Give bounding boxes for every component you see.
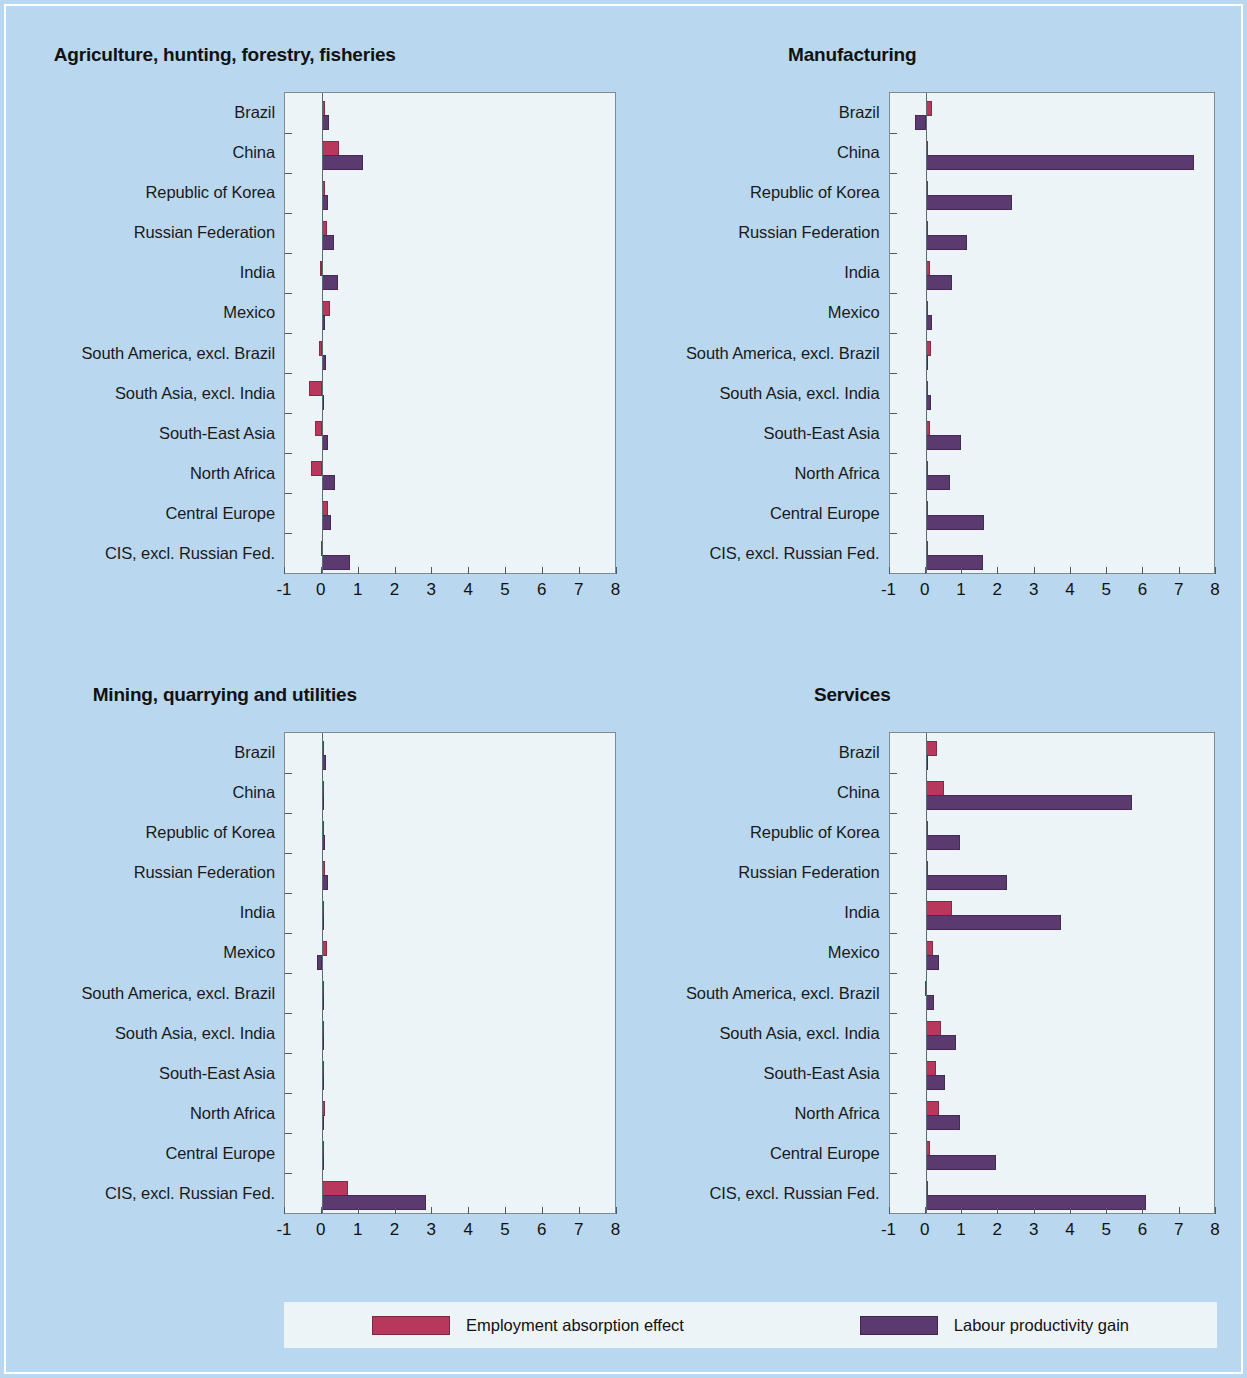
x-axis-ticks-agriculture bbox=[284, 567, 616, 574]
bars-layer bbox=[285, 93, 615, 573]
x-tick bbox=[284, 1207, 285, 1214]
x-tick bbox=[1179, 1207, 1180, 1214]
x-tick bbox=[961, 1207, 962, 1214]
chart-title-manufacturing: Manufacturing bbox=[624, 44, 1242, 66]
y-tick bbox=[890, 173, 897, 174]
x-tick bbox=[889, 567, 890, 574]
x-tick-label: 1 bbox=[956, 1220, 965, 1240]
bar-productivity bbox=[926, 955, 940, 970]
y-tick bbox=[285, 133, 292, 134]
category-labels-mining: BrazilChinaRepublic of KoreaRussian Fede… bbox=[22, 732, 284, 1214]
bar-row bbox=[890, 893, 1215, 933]
legend-item-employment: Employment absorption effect bbox=[372, 1316, 684, 1335]
plot-area-manufacturing bbox=[889, 92, 1216, 574]
category-label: South Asia, excl. India bbox=[22, 1013, 284, 1053]
y-tick bbox=[285, 373, 292, 374]
y-tick bbox=[285, 453, 292, 454]
y-tick bbox=[890, 493, 897, 494]
y-tick bbox=[890, 413, 897, 414]
bar-productivity bbox=[926, 1075, 946, 1090]
bar-row bbox=[890, 93, 1215, 133]
x-tick bbox=[616, 1207, 617, 1214]
x-tick-label: -1 bbox=[276, 580, 291, 600]
category-label: Brazil bbox=[22, 92, 284, 132]
x-tick-label: 6 bbox=[1138, 1220, 1147, 1240]
x-tick bbox=[1106, 567, 1107, 574]
bar-employment bbox=[926, 941, 934, 956]
x-tick bbox=[1070, 1207, 1071, 1214]
category-label: India bbox=[634, 893, 889, 933]
category-label: Russian Federation bbox=[22, 853, 284, 893]
x-tick bbox=[542, 1207, 543, 1214]
x-tick-label: 1 bbox=[956, 580, 965, 600]
y-tick bbox=[890, 453, 897, 454]
bar-row bbox=[890, 253, 1215, 293]
plot-area-agriculture bbox=[284, 92, 616, 574]
bar-employment bbox=[309, 381, 322, 396]
zero-line bbox=[322, 93, 323, 573]
x-tick-label: 8 bbox=[611, 580, 620, 600]
y-tick bbox=[285, 973, 292, 974]
y-tick bbox=[285, 1133, 292, 1134]
y-tick bbox=[890, 533, 897, 534]
y-tick bbox=[285, 493, 292, 494]
y-tick bbox=[285, 933, 292, 934]
x-tick bbox=[358, 567, 359, 574]
x-tick-label: -1 bbox=[881, 1220, 896, 1240]
category-label: North Africa bbox=[22, 1094, 284, 1134]
x-tick-label: 5 bbox=[1101, 580, 1110, 600]
y-tick bbox=[890, 253, 897, 254]
x-tick-label: 1 bbox=[353, 580, 362, 600]
bar-row bbox=[285, 813, 615, 853]
bar-row bbox=[285, 333, 615, 373]
category-label: Central Europe bbox=[22, 1134, 284, 1174]
y-tick bbox=[285, 293, 292, 294]
x-tick bbox=[997, 567, 998, 574]
y-tick bbox=[285, 893, 292, 894]
category-label: Mexico bbox=[634, 933, 889, 973]
y-tick bbox=[890, 1133, 897, 1134]
bar-row bbox=[285, 893, 615, 933]
y-tick bbox=[890, 213, 897, 214]
bar-row bbox=[285, 453, 615, 493]
category-labels-agriculture: BrazilChinaRepublic of KoreaRussian Fede… bbox=[22, 92, 284, 574]
y-tick bbox=[285, 253, 292, 254]
x-tick-label: 2 bbox=[993, 580, 1002, 600]
bar-employment bbox=[322, 301, 330, 316]
category-label: India bbox=[22, 893, 284, 933]
bar-row bbox=[285, 1053, 615, 1093]
x-tick-label: 1 bbox=[353, 1220, 362, 1240]
x-tick bbox=[925, 1207, 926, 1214]
chartbox-mining: BrazilChinaRepublic of KoreaRussian Fede… bbox=[22, 732, 616, 1248]
bar-productivity bbox=[322, 275, 338, 290]
x-tick-label: 3 bbox=[427, 1220, 436, 1240]
y-axis-ticks bbox=[285, 93, 292, 573]
chart-title-services: Services bbox=[624, 684, 1242, 706]
x-tick bbox=[1070, 567, 1071, 574]
x-tick-label: 4 bbox=[463, 1220, 472, 1240]
bar-productivity bbox=[322, 155, 363, 170]
y-tick bbox=[285, 333, 292, 334]
category-label: India bbox=[22, 253, 284, 293]
bar-productivity bbox=[926, 195, 1013, 210]
bar-row bbox=[890, 133, 1215, 173]
y-tick bbox=[890, 893, 897, 894]
x-tick-label: 8 bbox=[611, 1220, 620, 1240]
figure-frame: Agriculture, hunting, forestry, fisherie… bbox=[4, 4, 1243, 1374]
x-tick bbox=[961, 567, 962, 574]
x-tick-label: 8 bbox=[1210, 1220, 1219, 1240]
bar-row bbox=[890, 213, 1215, 253]
bar-productivity bbox=[926, 1035, 957, 1050]
y-tick bbox=[890, 1053, 897, 1054]
x-tick-label: 2 bbox=[390, 580, 399, 600]
chartbox-manufacturing: BrazilChinaRepublic of KoreaRussian Fede… bbox=[634, 92, 1216, 608]
zero-line bbox=[322, 733, 323, 1213]
bar-employment bbox=[926, 1061, 936, 1076]
bar-productivity bbox=[926, 875, 1007, 890]
panel-services: Services BrazilChinaRepublic of KoreaRus… bbox=[624, 646, 1242, 1286]
bar-row bbox=[285, 413, 615, 453]
x-tick bbox=[1034, 567, 1035, 574]
zero-line bbox=[926, 733, 927, 1213]
bar-productivity bbox=[926, 1155, 996, 1170]
x-tick-label: 0 bbox=[920, 580, 929, 600]
